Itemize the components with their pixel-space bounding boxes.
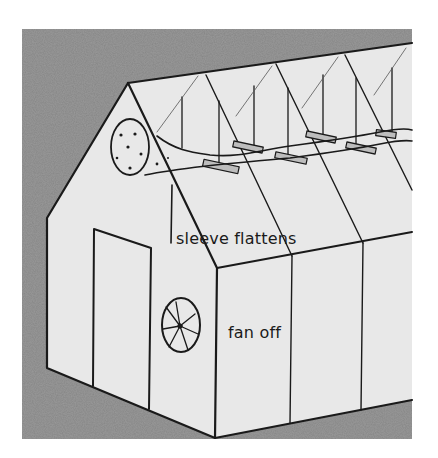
greenhouse-diagram: sleeve flattens fan off — [0, 0, 438, 458]
sleeve-leader-line — [171, 185, 172, 243]
sleeve-flattens-label: sleeve flattens — [176, 229, 297, 248]
fan-off-label: fan off — [228, 323, 281, 342]
fan-icon — [162, 298, 200, 352]
